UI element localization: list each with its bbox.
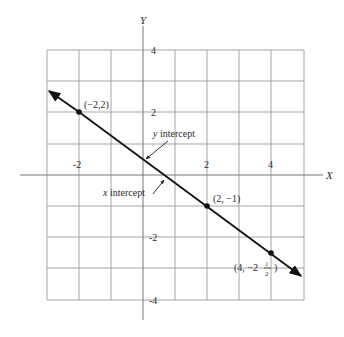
- point-label-frac-num: 1: [265, 260, 269, 268]
- x-intercept-pointer: [153, 180, 164, 194]
- point-neg2-2: [76, 109, 82, 115]
- point-2-neg1: [204, 203, 210, 209]
- point-label: (−2,2): [84, 99, 109, 111]
- x-intercept-annotation: x intercept: [102, 187, 145, 198]
- coordinate-plane: X Y -2 2 4 4 2 -2 -4 (−2,2) (2, −1) (4, …: [0, 0, 344, 337]
- x-tick-label: 2: [204, 159, 209, 170]
- y-tick-label: 2: [151, 107, 156, 118]
- x-axis-label: X: [325, 169, 334, 181]
- point-label: (2, −1): [213, 193, 240, 205]
- point-label: ): [274, 262, 277, 274]
- y-axis-label: Y: [140, 14, 148, 26]
- y-tick-label: -4: [149, 295, 157, 306]
- x-tick-label: -2: [73, 159, 81, 170]
- y-tick-label: 4: [151, 45, 156, 56]
- plotted-line-extension: [49, 91, 79, 112]
- x-tick-label: 4: [268, 159, 273, 170]
- point-label-frac-den: 2: [265, 270, 269, 278]
- y-tick-label: -2: [149, 232, 157, 243]
- point-label: (4, −2: [234, 262, 258, 274]
- point-4-neg2.5: [268, 250, 274, 256]
- y-intercept-annotation: y intercept: [152, 128, 195, 139]
